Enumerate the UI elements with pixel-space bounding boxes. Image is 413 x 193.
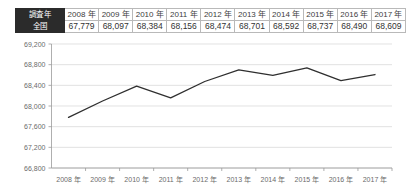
x-axis-tick-label: 2012 年 <box>192 175 217 184</box>
table-cell-value: 68,592 <box>269 21 303 33</box>
table-corner-label: 調査年 <box>16 9 65 21</box>
column-header-year: 2013 年 <box>235 9 269 21</box>
column-header-year: 2016 年 <box>337 9 371 21</box>
row-header-nationwide: 全国 <box>16 21 65 33</box>
survey-data-table: 調査年 2008 年 2009 年 2010 年 2011 年 2012 年 2… <box>15 8 406 33</box>
chart-x-axis-labels: 2008 年2009 年2010 年2011 年2012 年2013 年2014… <box>56 175 387 184</box>
table-cell-value: 68,156 <box>167 21 201 33</box>
y-axis-tick-label: 67,600 <box>24 123 46 130</box>
column-header-year: 2011 年 <box>167 9 201 21</box>
y-axis-tick-label: 68,800 <box>24 61 46 68</box>
line-chart: 69,20068,80068,40068,00067,60067,20066,8… <box>0 36 413 193</box>
column-header-year: 2009 年 <box>99 9 133 21</box>
y-axis-tick-label: 68,000 <box>24 103 46 110</box>
x-axis-tick-label: 2011 年 <box>159 175 183 184</box>
table-cell-value: 68,097 <box>99 21 133 33</box>
column-header-year: 2010 年 <box>133 9 167 21</box>
x-axis-tick-label: 2017 年 <box>363 175 388 184</box>
y-axis-tick-label: 69,200 <box>24 41 46 48</box>
chart-series-line-nationwide <box>69 68 375 118</box>
chart-y-ticks <box>49 44 52 168</box>
table-cell-value: 68,609 <box>371 21 405 33</box>
table-header-row: 調査年 2008 年 2009 年 2010 年 2011 年 2012 年 2… <box>16 9 406 21</box>
column-header-year: 2012 年 <box>201 9 235 21</box>
column-header-year: 2015 年 <box>303 9 337 21</box>
x-axis-tick-label: 2013 年 <box>227 175 252 184</box>
x-axis-tick-label: 2014 年 <box>261 175 286 184</box>
table-cell-value: 68,474 <box>201 21 235 33</box>
column-header-year: 2008 年 <box>65 9 99 21</box>
chart-gridlines <box>52 44 393 168</box>
table-cell-value: 68,701 <box>235 21 269 33</box>
table-cell-value: 67,779 <box>65 21 99 33</box>
y-axis-tick-label: 67,200 <box>24 144 46 151</box>
x-axis-tick-label: 2016 年 <box>329 175 354 184</box>
x-axis-tick-label: 2009 年 <box>90 175 115 184</box>
y-axis-tick-label: 68,400 <box>24 82 46 89</box>
column-header-year: 2014 年 <box>269 9 303 21</box>
column-header-year: 2017 年 <box>371 9 405 21</box>
x-axis-tick-label: 2010 年 <box>124 175 149 184</box>
table-cell-value: 68,384 <box>133 21 167 33</box>
x-axis-tick-label: 2008 年 <box>56 175 81 184</box>
table-row: 全国 67,779 68,097 68,384 68,156 68,474 68… <box>16 21 406 33</box>
chart-x-ticks <box>86 168 392 171</box>
chart-svg: 69,20068,80068,40068,00067,60067,20066,8… <box>0 36 413 193</box>
chart-y-axis-labels: 69,20068,80068,40068,00067,60067,20066,8… <box>24 41 46 172</box>
table-cell-value: 68,737 <box>303 21 337 33</box>
y-axis-tick-label: 66,800 <box>24 165 46 172</box>
x-axis-tick-label: 2015 年 <box>295 175 320 184</box>
table-cell-value: 68,490 <box>337 21 371 33</box>
